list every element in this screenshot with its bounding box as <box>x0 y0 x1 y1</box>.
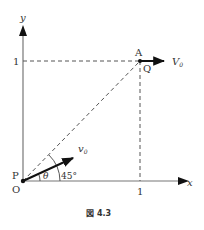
y-axis <box>19 25 27 181</box>
point-A-label: A <box>134 47 143 58</box>
theta-label: θ <box>43 171 49 181</box>
caption-number: 4.3 <box>97 209 111 218</box>
diagonal-dashed-line <box>23 61 140 181</box>
projectile-diagram: y x 1 1 P O A Q V0 v0 θ 45° 図 4.3 <box>0 0 204 230</box>
y-axis-arrow-icon <box>19 25 27 36</box>
point-P-label: P <box>12 170 19 181</box>
x-axis-label: x <box>187 177 193 188</box>
origin-label: O <box>12 184 20 195</box>
launch-velocity-subscript: 0 <box>84 148 88 155</box>
y-tick-label: 1 <box>13 56 19 67</box>
angle-45-label: 45° <box>61 171 77 181</box>
launch-velocity-label: v0 <box>78 143 88 155</box>
horizontal-velocity-label: V0 <box>172 56 183 68</box>
x-tick-label: 1 <box>137 186 143 197</box>
y-axis-label: y <box>19 12 26 23</box>
point-Q-label: Q <box>143 63 151 74</box>
caption-symbol: 図 <box>86 209 94 218</box>
theta-arc <box>39 175 40 181</box>
horizontal-velocity-subscript: 0 <box>179 61 183 68</box>
point-origin <box>21 179 25 183</box>
point-A <box>138 59 142 63</box>
